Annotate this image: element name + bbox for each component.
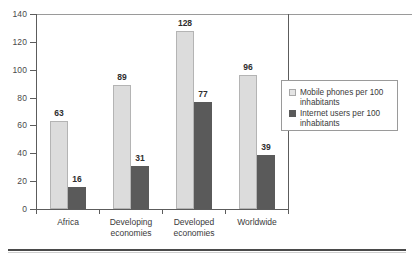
x-label-line: Worldwide	[220, 217, 294, 228]
page-divider-rule-shadow	[8, 252, 406, 253]
y-tick-20	[30, 181, 36, 182]
bar-value-label-mobile-phones-3: 96	[232, 63, 264, 72]
y-tick-label-40: 40	[1, 149, 27, 158]
x-tick-4	[288, 209, 289, 214]
y-tick-120	[30, 42, 36, 43]
chart-top-rule	[36, 14, 412, 15]
legend-swatch-mobile-phones	[289, 89, 296, 96]
bar-value-label-mobile-phones-2: 128	[169, 19, 201, 28]
bar-mobile-phones-0	[50, 121, 68, 209]
y-tick-60	[30, 125, 36, 126]
legend-item-internet-users: Internet users per 100 inhabitants	[289, 109, 393, 129]
y-tick-40	[30, 153, 36, 154]
x-label-line: economies	[157, 228, 231, 239]
legend-label-mobile-phones-line1: Mobile phones per 100	[300, 88, 393, 98]
y-tick-label-0: 0	[1, 205, 27, 214]
bar-mobile-phones-3	[239, 75, 257, 209]
y-axis-line	[36, 14, 37, 210]
bar-mobile-phones-1	[113, 85, 131, 209]
legend-swatch-internet-users	[289, 110, 296, 117]
legend-item-mobile-phones: Mobile phones per 100 inhabitants	[289, 88, 393, 108]
x-tick-2	[162, 209, 163, 214]
bar-value-label-internet-users-3: 39	[250, 143, 282, 152]
y-tick-label-140: 140	[1, 10, 27, 19]
y-tick-100	[30, 70, 36, 71]
y-tick-140	[30, 14, 36, 15]
y-tick-label-100: 100	[1, 66, 27, 75]
x-tick-1	[99, 209, 100, 214]
bar-internet-users-2	[194, 102, 212, 209]
bar-internet-users-1	[131, 166, 149, 209]
legend-label-mobile-phones-line2: inhabitants	[300, 98, 393, 108]
x-tick-3	[225, 209, 226, 214]
bar-value-label-internet-users-1: 31	[124, 154, 156, 163]
bar-value-label-internet-users-0: 16	[61, 175, 93, 184]
x-tick-0	[36, 209, 37, 214]
x-axis-label-3: Worldwide	[220, 217, 294, 228]
y-tick-label-20: 20	[1, 177, 27, 186]
bar-mobile-phones-2	[176, 31, 194, 209]
legend-label-internet-users-line1: Internet users per 100	[300, 109, 393, 119]
legend-label-internet-users-line2: inhabitants	[300, 119, 393, 129]
bar-chart-figure: 020406080100120140 63168931128779639 Afr…	[0, 0, 412, 264]
bar-value-label-internet-users-2: 77	[187, 90, 219, 99]
page-divider-rule	[8, 249, 406, 251]
y-tick-80	[30, 98, 36, 99]
chart-legend: Mobile phones per 100 inhabitants Intern…	[281, 80, 398, 131]
bar-internet-users-0	[68, 187, 86, 209]
bar-value-label-mobile-phones-0: 63	[43, 109, 75, 118]
bar-value-label-mobile-phones-1: 89	[106, 73, 138, 82]
y-tick-label-120: 120	[1, 38, 27, 47]
y-tick-label-80: 80	[1, 94, 27, 103]
y-tick-label-60: 60	[1, 121, 27, 130]
bar-internet-users-3	[257, 155, 275, 209]
